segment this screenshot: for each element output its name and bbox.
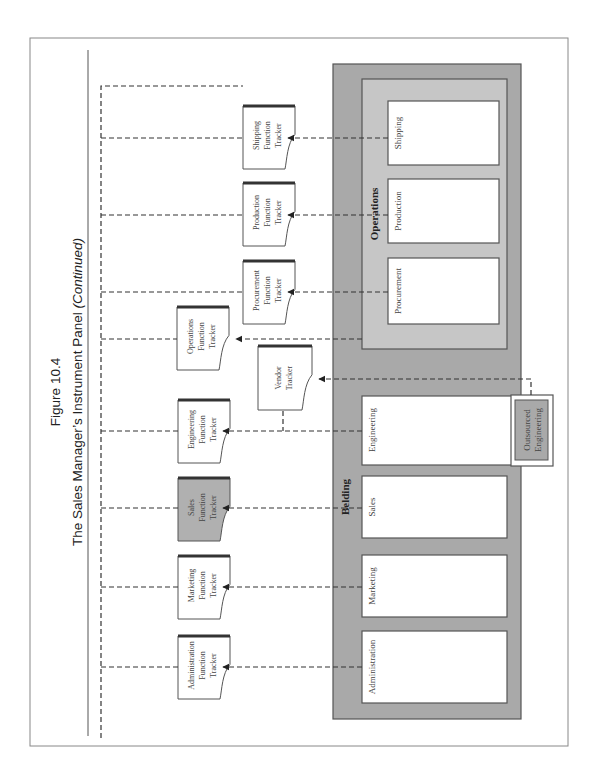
tracker-engineering: EngineeringFunctionTracker (178, 400, 230, 463)
tracker-label: Shipping (252, 121, 261, 150)
outsourced-label-1: Outsourced (522, 409, 532, 451)
tracker-label: Engineering (187, 410, 196, 449)
tracker-label: Operations (186, 319, 195, 354)
unit-procurement: Procurement (388, 258, 499, 324)
tracker-label: Tracker (274, 278, 283, 303)
unit-label: Procurement (393, 268, 403, 314)
figure-canvas: Figure 10.4 The Sales Manager’s Instrume… (0, 0, 595, 774)
unit-label: Production (393, 191, 403, 231)
tracker-label: Function (197, 322, 206, 350)
unit-label: Sales (367, 497, 377, 516)
tracker-marketing: MarketingFunctionTracker (178, 556, 230, 619)
tracker-label: Function (198, 415, 207, 443)
unit-marketing: Marketing (362, 555, 507, 617)
tracker-label: Procurement (252, 269, 261, 311)
figure-number: Figure 10.4 (48, 357, 63, 426)
tracker-label: Function (263, 121, 272, 149)
vendor-label-1: Vendor (274, 366, 283, 389)
figure-title: The Sales Manager’s Instrument Panel (Co… (70, 238, 85, 546)
vendor-tracker: Vendor Tracker (258, 346, 312, 410)
unit-shipping: Shipping (388, 101, 499, 165)
figure-title-group: Figure 10.4 The Sales Manager’s Instrume… (48, 238, 85, 546)
tracker-label: Production (252, 195, 261, 230)
unit-engineering: Engineering (362, 396, 522, 465)
unit-administration: Administration (362, 631, 507, 703)
tracker-label: Tracker (208, 324, 217, 349)
tracker-label: Tracker (209, 495, 218, 520)
tracker-label: Sales (187, 499, 196, 516)
outsourced-engineering: Outsourced Engineering (511, 395, 553, 466)
vendor-label-2: Tracker (285, 365, 294, 390)
tracker-label: Tracker (274, 123, 283, 148)
unit-production: Production (388, 179, 499, 243)
outsourced-label-2: Engineering (533, 408, 543, 452)
operations-label: Operations (368, 187, 380, 240)
tracker-label: Function (198, 493, 207, 521)
tracker-operations: OperationsFunctionTracker (177, 307, 229, 370)
unit-label: Marketing (367, 567, 377, 605)
tracker-administration: AdministrationFunctionTracker (178, 636, 230, 699)
belding-label: Belding (339, 478, 351, 515)
tracker-label: Tracker (209, 417, 218, 442)
unit-sales: Sales (362, 476, 507, 538)
tracker-shipping: ShippingFunctionTracker (243, 106, 295, 169)
tracker-procurement: ProcurementFunctionTracker (243, 261, 295, 324)
tracker-production: ProductionFunctionTracker (243, 183, 295, 246)
tracker-label: Function (263, 276, 272, 304)
tracker-sales: SalesFunctionTracker (178, 478, 230, 541)
tracker-label: Function (198, 651, 207, 679)
tracker-label: Function (263, 198, 272, 226)
tracker-label: Tracker (209, 573, 218, 598)
tracker-label: Tracker (209, 653, 218, 678)
unit-label: Engineering (367, 408, 377, 452)
tracker-label: Function (198, 571, 207, 599)
tracker-label: Administration (187, 641, 196, 689)
unit-label: Administration (367, 639, 377, 694)
tracker-label: Tracker (274, 200, 283, 225)
unit-label: Shipping (393, 116, 403, 149)
tracker-label: Marketing (187, 569, 196, 602)
